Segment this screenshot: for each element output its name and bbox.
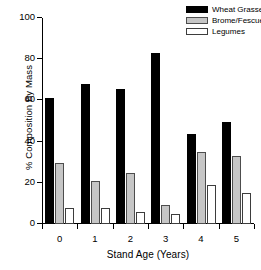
x-tick — [77, 224, 78, 229]
x-tick-label: 3 — [156, 233, 176, 244]
legend-swatch-icon — [186, 6, 208, 13]
legend-item: Brome/Fescue — [186, 16, 261, 25]
legend-label: Wheat Grasses — [212, 5, 261, 14]
y-tick-label: 40 — [24, 135, 35, 146]
y-tick: 100 — [37, 17, 42, 18]
bar — [232, 156, 241, 224]
y-tick: 40 — [37, 141, 42, 142]
y-tick-label: 100 — [19, 11, 35, 22]
bar — [55, 163, 64, 224]
x-tick-label: 2 — [120, 233, 140, 244]
bar — [161, 205, 170, 224]
x-tick-label: 0 — [50, 233, 70, 244]
x-tick — [219, 224, 220, 229]
legend-label: Legumes — [212, 27, 245, 36]
legend-swatch-icon — [186, 28, 208, 35]
legend-swatch-icon — [186, 17, 208, 24]
x-tick-label: 1 — [85, 233, 105, 244]
legend: Wheat GrassesBrome/FescueLegumes — [186, 5, 261, 38]
bar — [81, 84, 90, 224]
bar — [242, 193, 251, 224]
bar — [65, 208, 74, 224]
bar — [116, 89, 125, 224]
y-tick: 80 — [37, 58, 42, 59]
x-tick-label: 5 — [226, 233, 246, 244]
bar — [101, 208, 110, 224]
bar-chart: % Composition By Mass 020406080100 01234… — [0, 0, 261, 270]
bar — [222, 122, 231, 224]
y-tick-label: 0 — [30, 217, 35, 228]
legend-label: Brome/Fescue — [212, 16, 261, 25]
y-axis-line — [42, 18, 43, 224]
x-axis-title: Stand Age (Years) — [42, 249, 254, 260]
y-tick-label: 60 — [24, 93, 35, 104]
bar — [91, 181, 100, 224]
bar — [126, 173, 135, 225]
y-tick-label: 80 — [24, 52, 35, 63]
legend-item: Wheat Grasses — [186, 5, 261, 14]
x-tick — [254, 224, 255, 229]
bar — [197, 152, 206, 224]
x-tick — [148, 224, 149, 229]
x-tick — [183, 224, 184, 229]
plot-area: 020406080100 012345 — [42, 18, 254, 224]
y-tick: 60 — [37, 99, 42, 100]
bar — [45, 98, 54, 224]
bar — [187, 134, 196, 224]
x-tick-label: 4 — [191, 233, 211, 244]
x-tick — [42, 224, 43, 229]
legend-item: Legumes — [186, 27, 261, 36]
y-tick-label: 20 — [24, 176, 35, 187]
bar — [136, 212, 145, 224]
bar — [151, 53, 160, 224]
y-tick: 20 — [37, 182, 42, 183]
bar — [207, 185, 216, 224]
bar — [171, 214, 180, 224]
x-tick — [113, 224, 114, 229]
